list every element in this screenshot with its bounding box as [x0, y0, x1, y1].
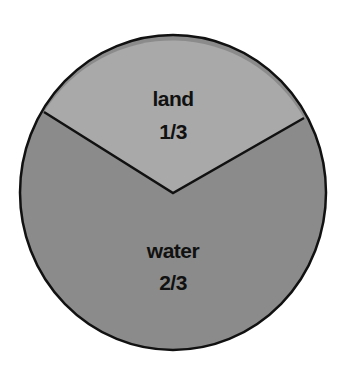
water-label: water	[146, 239, 200, 262]
land-fraction-label: 1/3	[159, 120, 187, 143]
land-label: land	[152, 87, 193, 110]
pie-chart: land 1/3 water 2/3	[0, 0, 351, 380]
water-fraction-label: 2/3	[159, 271, 187, 294]
